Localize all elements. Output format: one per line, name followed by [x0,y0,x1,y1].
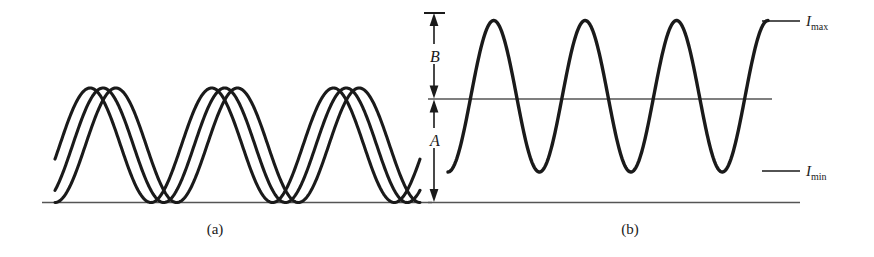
fringe-curve-3 [55,88,420,203]
imax-subscript: max [811,21,828,32]
panel-a-caption: (a) [150,221,280,238]
dimension-label-A: A [430,132,440,150]
imin-subscript: min [811,171,827,182]
level-label-imax: Imax [806,13,828,32]
dimension-label-B: B [430,48,440,66]
panel-a [42,88,432,203]
dimension-arrow-A [430,100,439,203]
panel-b [424,13,800,203]
interference-fringe-figure [0,0,874,257]
fringe-curve [448,21,768,173]
level-label-imin: Imin [806,163,827,182]
panel-b-caption: (b) [565,221,695,238]
